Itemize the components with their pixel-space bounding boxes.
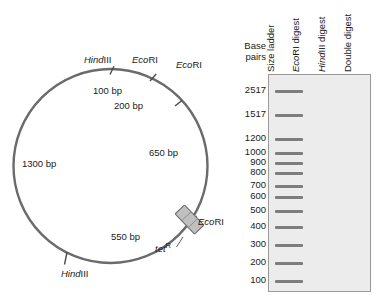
gel-axis-title: Base pairs (228, 40, 266, 62)
lane-header-italic-1: Eco (290, 56, 301, 72)
lane-header-double-digest-wrap: Double digest (353, 0, 354, 72)
label-fragment-650bp: 650 bp (149, 147, 178, 158)
gel-tick-label-100: 100 (228, 275, 266, 285)
label-site-ecori-upper-right: EcoRI (176, 59, 202, 70)
gel-band-300 (275, 244, 303, 247)
lane-header-hindiii-digest: HindIII digest (316, 17, 327, 72)
lane-header-ecori-digest-wrap: EcoRI digest (301, 0, 302, 72)
restriction-tick-hindiii-top (110, 66, 114, 74)
label-fragment-1300bp: 1300 bp (22, 158, 56, 169)
label-site-hindiii-bottom: HindIII (61, 268, 88, 279)
gel-band-800 (275, 172, 303, 175)
gel-axis-title-line2: pairs (228, 51, 266, 62)
gel-box (268, 74, 371, 292)
lane-header-size-ladder: Size ladder (265, 24, 276, 72)
lane-header-roman-3: Double digest (342, 14, 353, 72)
gene-superscript: R (166, 241, 171, 250)
gel-band-200 (275, 262, 303, 265)
tet-r-leader-line (177, 237, 184, 247)
gel-band-900 (275, 162, 303, 165)
label-site-ecori-lower-right: EcoRI (198, 216, 224, 227)
plasmid-map-panel: HindIII EcoRI EcoRI EcoRI HindIII tetR 1… (0, 0, 230, 300)
label-site-ecori-top: EcoRI (132, 54, 158, 65)
gel-tick-label-400: 400 (228, 221, 266, 231)
gel-tick-label-1517: 1517 (228, 109, 266, 119)
label-gene-tet-r: tetR (155, 240, 171, 254)
gene-name: tet (155, 243, 166, 254)
lane-header-double-digest: Double digest (342, 14, 353, 72)
gel-band-600 (275, 196, 303, 199)
lane-header-size-ladder-wrap: Size ladder (276, 0, 277, 72)
gel-tick-label-700: 700 (228, 180, 266, 190)
gel-band-500 (275, 210, 303, 213)
gel-tick-label-600: 600 (228, 191, 266, 201)
figure-root: HindIII EcoRI EcoRI EcoRI HindIII tetR 1… (0, 0, 380, 300)
gel-tick-label-500: 500 (228, 205, 266, 215)
lane-header-hindiii-digest-wrap: HindIII digest (327, 0, 328, 72)
lane-header-ecori-digest: EcoRI digest (290, 18, 301, 72)
label-site-hindiii-top: HindIII (84, 54, 111, 65)
restriction-tick-hindiii-bottom (65, 253, 68, 265)
gel-band-1200 (275, 138, 303, 141)
gel-axis-title-line1: Base (228, 40, 266, 51)
label-fragment-200bp: 200 bp (114, 100, 143, 111)
gel-electrophoresis-panel: Base pairs Size ladder EcoRI digest Hind… (228, 0, 380, 300)
lane-header-roman-0: Size ladder (265, 24, 276, 72)
plasmid-circle-svg (0, 0, 230, 300)
gel-band-2517 (275, 90, 303, 93)
gel-band-700 (275, 185, 303, 188)
gel-band-400 (275, 226, 303, 229)
lane-header-roman-2: III digest (316, 17, 327, 53)
gel-tick-label-200: 200 (228, 257, 266, 267)
gel-band-100 (275, 280, 303, 283)
restriction-tick-ecori-upper-right (175, 101, 182, 107)
label-fragment-550bp: 550 bp (111, 231, 140, 242)
gel-tick-label-2517: 2517 (228, 85, 266, 95)
gel-tick-label-300: 300 (228, 239, 266, 249)
gel-band-1517 (275, 114, 303, 117)
gel-band-1000 (275, 152, 303, 155)
gel-tick-label-800: 800 (228, 167, 266, 177)
lane-header-italic-2: Hind (316, 52, 327, 72)
label-fragment-100bp: 100 bp (93, 85, 122, 96)
lane-header-roman-1: RI digest (290, 18, 301, 56)
gel-tick-label-1200: 1200 (228, 133, 266, 143)
